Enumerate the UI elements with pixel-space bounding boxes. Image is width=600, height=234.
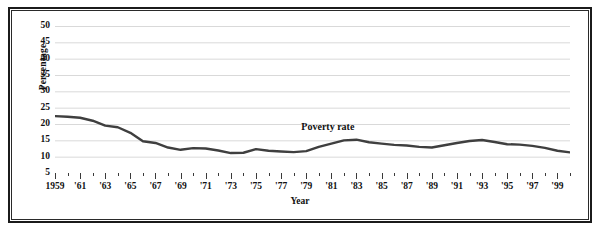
x-tick-major [356, 173, 357, 179]
x-tick-major [507, 173, 508, 179]
x-tick-minor [294, 173, 295, 176]
y-tick-label: 30 [16, 86, 50, 96]
x-tick-minor [344, 173, 345, 176]
x-tick-label: '85 [376, 181, 388, 191]
x-tick-label: '89 [426, 181, 438, 191]
x-tick-minor [243, 173, 244, 176]
x-tick-label: '99 [551, 181, 563, 191]
x-axis-title: Year [0, 196, 600, 206]
x-tick-major [557, 173, 558, 179]
y-tick-label: 50 [16, 21, 50, 31]
x-tick-label: '95 [501, 181, 513, 191]
series-label-poverty-rate: Poverty rate [301, 121, 354, 132]
x-tick-minor [520, 173, 521, 176]
x-tick-major [306, 173, 307, 179]
x-tick-minor [143, 173, 144, 176]
x-tick-minor [444, 173, 445, 176]
x-tick-major [482, 173, 483, 179]
x-tick-minor [218, 173, 219, 176]
x-tick-minor [545, 173, 546, 176]
x-tick-minor [495, 173, 496, 176]
x-tick-label: '81 [325, 181, 337, 191]
x-tick-label: 1959 [46, 181, 65, 191]
x-tick-major [331, 173, 332, 179]
x-tick-label: '69 [175, 181, 187, 191]
x-tick-major [281, 173, 282, 179]
horizontal-gridlines [55, 27, 570, 174]
x-tick-label: '79 [300, 181, 312, 191]
x-tick-minor [193, 173, 194, 176]
x-tick-label: '97 [526, 181, 538, 191]
plot-svg [55, 26, 570, 173]
x-tick-minor [419, 173, 420, 176]
x-tick-label: '91 [451, 181, 463, 191]
x-axis-tick-labels: 1959'61'63'65'67'69'71'73'75'77'79'81'83… [0, 181, 600, 194]
y-tick-label: 45 [16, 37, 50, 47]
x-tick-major [206, 173, 207, 179]
x-tick-major [55, 173, 56, 179]
x-tick-minor [319, 173, 320, 176]
y-tick-label: 35 [16, 70, 50, 80]
x-tick-minor [168, 173, 169, 176]
x-tick-major [231, 173, 232, 179]
x-tick-major [130, 173, 131, 179]
x-tick-label: '75 [250, 181, 262, 191]
x-tick-major [407, 173, 408, 179]
x-tick-label: '65 [124, 181, 136, 191]
x-tick-major [532, 173, 533, 179]
x-tick-label: '93 [476, 181, 488, 191]
y-tick-label: 5 [16, 168, 50, 178]
y-tick-label: 20 [16, 119, 50, 129]
x-tick-major [256, 173, 257, 179]
poverty-rate-chart-figure: Percentage 5045403530252015105 Poverty r… [0, 0, 600, 234]
x-tick-label: '63 [99, 181, 111, 191]
y-tick-label: 15 [16, 135, 50, 145]
x-tick-major [80, 173, 81, 179]
x-tick-minor [369, 173, 370, 176]
x-tick-minor [68, 173, 69, 176]
x-tick-major [181, 173, 182, 179]
y-axis-tick-labels: 5045403530252015105 [16, 26, 50, 173]
x-tick-major [457, 173, 458, 179]
x-tick-label: '61 [74, 181, 86, 191]
y-tick-label: 40 [16, 54, 50, 64]
x-tick-minor [118, 173, 119, 176]
x-tick-label: '83 [350, 181, 362, 191]
x-tick-major [105, 173, 106, 179]
plot-area [55, 26, 570, 173]
x-tick-major [155, 173, 156, 179]
x-tick-minor [93, 173, 94, 176]
x-tick-minor [570, 173, 571, 176]
x-tick-label: '73 [225, 181, 237, 191]
x-tick-minor [394, 173, 395, 176]
x-tick-label: '87 [401, 181, 413, 191]
y-tick-label: 10 [16, 152, 50, 162]
x-tick-label: '77 [275, 181, 287, 191]
x-tick-label: '71 [200, 181, 212, 191]
y-tick-label: 25 [16, 103, 50, 113]
x-tick-label: '67 [149, 181, 161, 191]
x-tick-major [382, 173, 383, 179]
x-axis-ticks [55, 173, 570, 180]
x-tick-minor [269, 173, 270, 176]
x-tick-major [432, 173, 433, 179]
x-tick-minor [470, 173, 471, 176]
